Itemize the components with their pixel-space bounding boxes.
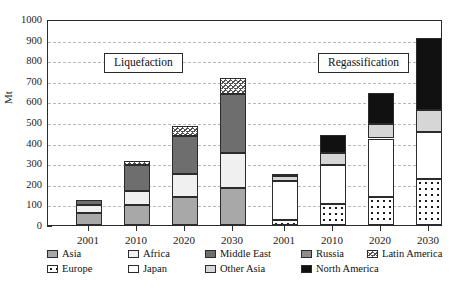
y-axis-tick-label: 200 <box>2 180 42 190</box>
bar-segment-europe <box>416 179 442 225</box>
x-axis-tick-label: 2030 <box>207 235 257 246</box>
legend-swatch-icon <box>128 250 139 258</box>
legend-label: Other Asia <box>220 263 265 274</box>
gridline <box>48 42 441 43</box>
y-axis-tick-label: 300 <box>2 159 42 169</box>
x-axis-tick <box>428 226 429 231</box>
legend-swatch-icon <box>367 250 378 258</box>
x-axis-tick <box>136 226 137 231</box>
bar-segment-europe <box>368 197 394 225</box>
x-axis-tick-label: 2030 <box>403 235 453 246</box>
bar-segment-middle-east <box>220 94 246 153</box>
bar-segment-europe <box>272 220 298 225</box>
x-axis-tick <box>332 226 333 231</box>
bar-liquefaction-2010 <box>124 161 150 225</box>
bar-liquefaction-2030 <box>220 78 246 225</box>
bar-segment-latin-america <box>172 126 198 136</box>
bar-segment-asia <box>220 188 246 225</box>
bar-regassification-2030 <box>416 38 442 225</box>
legend-item-africa[interactable]: Africa <box>128 248 170 259</box>
bar-segment-middle-east <box>172 136 198 173</box>
legend-label: Asia <box>62 248 81 259</box>
legend-swatch-icon <box>128 265 139 273</box>
legend-swatch-icon <box>47 265 58 273</box>
legend-item-north-america[interactable]: North America <box>301 263 379 274</box>
chart-root: Mt 01002003004005006007008009001000 Liqu… <box>0 0 467 288</box>
callout-regassification: Regassification <box>318 53 409 73</box>
x-axis-tick-label: 2010 <box>307 235 357 246</box>
bar-segment-japan <box>272 181 298 220</box>
bar-segment-other-asia <box>416 110 442 133</box>
bar-liquefaction-2001 <box>76 200 102 225</box>
legend-item-europe[interactable]: Europe <box>47 263 92 274</box>
legend-label: Russia <box>316 248 344 259</box>
x-axis-tick <box>232 226 233 231</box>
legend-swatch-icon <box>205 250 216 258</box>
legend-item-japan[interactable]: Japan <box>128 263 167 274</box>
legend-swatch-icon <box>301 265 312 273</box>
bar-segment-asia <box>124 205 150 225</box>
x-axis-tick <box>380 226 381 231</box>
x-axis-tick-label: 2010 <box>111 235 161 246</box>
bar-segment-north-america <box>272 174 298 176</box>
bar-segment-japan <box>320 165 346 204</box>
bar-segment-africa <box>220 153 246 188</box>
bar-segment-north-america <box>320 135 346 153</box>
legend-item-middle-east[interactable]: Middle East <box>205 248 271 259</box>
bar-segment-japan <box>368 139 394 198</box>
x-axis-tick-label: 2020 <box>355 235 405 246</box>
y-axis-tick-label: 400 <box>2 139 42 149</box>
legend-label: Japan <box>143 263 167 274</box>
bar-segment-asia <box>172 197 198 225</box>
x-axis-tick-label: 2001 <box>63 235 113 246</box>
legend-label: Latin America <box>382 248 442 259</box>
legend-swatch-icon <box>301 250 312 258</box>
bar-regassification-2010 <box>320 135 346 225</box>
legend-swatch-icon <box>205 265 216 273</box>
x-axis-tick <box>184 226 185 231</box>
x-axis-tick-label: 2020 <box>159 235 209 246</box>
bar-segment-africa <box>172 174 198 198</box>
bar-segment-other-asia <box>368 124 394 138</box>
bar-segment-latin-america <box>220 78 246 94</box>
bar-segment-middle-east <box>124 165 150 191</box>
bar-segment-asia <box>76 213 102 225</box>
plot-area: Liquefaction Regassification <box>47 20 442 226</box>
bar-segment-middle-east <box>76 200 102 205</box>
bar-segment-africa <box>124 191 150 205</box>
legend-item-asia[interactable]: Asia <box>47 248 81 259</box>
x-axis-tick <box>88 226 89 231</box>
y-axis-tick-label: 600 <box>2 97 42 107</box>
bar-regassification-2001 <box>272 174 298 226</box>
legend-swatch-icon <box>47 250 58 258</box>
x-axis-tick <box>284 226 285 231</box>
legend-label: Europe <box>62 263 92 274</box>
bar-segment-north-america <box>416 38 442 110</box>
bar-segment-africa <box>76 205 102 212</box>
legend-item-other-asia[interactable]: Other Asia <box>205 263 265 274</box>
y-axis-tick-label: 900 <box>2 36 42 46</box>
callout-liquefaction: Liquefaction <box>104 53 183 73</box>
bar-segment-japan <box>416 132 442 178</box>
y-axis-tick-label: 700 <box>2 77 42 87</box>
bar-segment-europe <box>320 204 346 225</box>
y-axis-tick-label: 100 <box>2 200 42 210</box>
bar-segment-latin-america <box>124 161 150 165</box>
legend-label: Africa <box>143 248 170 259</box>
x-axis-tick-label: 2001 <box>259 235 309 246</box>
legend-item-russia[interactable]: Russia <box>301 248 344 259</box>
legend-label: North America <box>316 263 379 274</box>
bar-segment-other-asia <box>320 153 346 165</box>
bar-regassification-2020 <box>368 93 394 225</box>
bar-segment-north-america <box>368 93 394 124</box>
y-axis-tick-label: 1000 <box>2 15 42 25</box>
legend-label: Middle East <box>220 248 271 259</box>
y-axis-tick-label: 500 <box>2 118 42 128</box>
y-axis-tick <box>47 226 52 227</box>
legend-item-latin-america[interactable]: Latin America <box>367 248 442 259</box>
y-axis-tick-label: 0 <box>2 221 42 231</box>
bar-liquefaction-2020 <box>172 126 198 225</box>
y-axis-tick-label: 800 <box>2 56 42 66</box>
bar-segment-other-asia <box>272 176 298 181</box>
